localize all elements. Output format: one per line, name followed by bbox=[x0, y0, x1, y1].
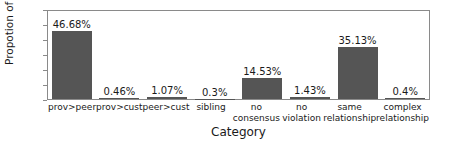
bar-value-label: 14.53% bbox=[239, 66, 287, 77]
bar bbox=[290, 97, 330, 99]
x-tick-labels: prov>peer prov>cust peer>cust sibling no… bbox=[48, 102, 429, 126]
x-tick-label: prov>peer bbox=[48, 102, 96, 126]
x-tick-label: sibling bbox=[189, 102, 232, 126]
bar-slot: 0.3% bbox=[191, 11, 239, 99]
bar bbox=[99, 98, 139, 99]
bars-layer: 46.68% 0.46% 1.07% 0.3% 14.53% 1.43% 35.… bbox=[48, 11, 429, 99]
bar-value-label: 0.4% bbox=[381, 86, 429, 97]
bar-value-label: 35.13% bbox=[334, 35, 382, 46]
x-tick-label: same relationship bbox=[323, 102, 376, 126]
bar-value-label: 0.46% bbox=[96, 86, 144, 97]
y-tick-mark bbox=[43, 100, 47, 101]
x-tick-label: complex relationship bbox=[376, 102, 429, 126]
x-tick-label: no consensus bbox=[233, 102, 280, 126]
bar-value-label: 1.07% bbox=[143, 85, 191, 96]
bar-value-label: 46.68% bbox=[48, 19, 96, 30]
bar-value-label: 1.43% bbox=[286, 85, 334, 96]
bar-slot: 1.07% bbox=[143, 11, 191, 99]
bar bbox=[147, 97, 187, 99]
x-tick-label: no violation bbox=[280, 102, 323, 126]
bar-chart-figure: Propotion of policies (%) 60 50 40 30 20… bbox=[0, 0, 449, 147]
bar bbox=[242, 78, 282, 99]
bar bbox=[338, 47, 378, 99]
bar-slot: 46.68% bbox=[48, 11, 96, 99]
x-tick-label: peer>cust bbox=[143, 102, 190, 126]
bar-slot: 1.43% bbox=[286, 11, 334, 99]
bar-value-label: 0.3% bbox=[191, 87, 239, 98]
bar-slot: 35.13% bbox=[334, 11, 382, 99]
bar-slot: 0.4% bbox=[381, 11, 429, 99]
y-axis-title: Propotion of policies (%) bbox=[3, 0, 17, 65]
x-tick-label: prov>cust bbox=[96, 102, 142, 126]
bar bbox=[385, 98, 425, 99]
bar-slot: 14.53% bbox=[239, 11, 287, 99]
bar-slot: 0.46% bbox=[96, 11, 144, 99]
bar bbox=[52, 31, 92, 99]
x-axis-title: Category bbox=[47, 125, 430, 139]
